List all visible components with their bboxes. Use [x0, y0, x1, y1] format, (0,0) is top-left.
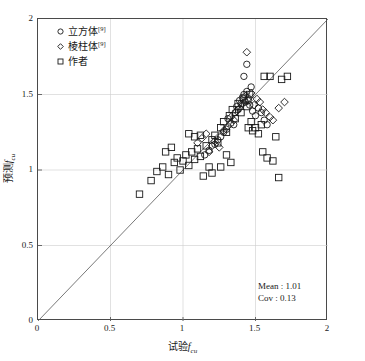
x-tick-label: 0 — [35, 324, 40, 333]
mean-value: Mean : 1.01 — [258, 280, 301, 292]
y-tick-label: 0 — [13, 316, 33, 325]
square-marker-icon — [54, 55, 67, 68]
x-axis-symbol: fcu — [188, 341, 197, 352]
y-axis-symbol: fcu — [3, 154, 14, 163]
data-point-square — [248, 118, 254, 124]
cov-value: Cov : 0.13 — [258, 292, 301, 304]
legend-label-author: 作者 — [68, 56, 88, 67]
y-tick-label: 2 — [13, 14, 33, 23]
data-point-square — [165, 171, 171, 177]
legend-item-author: 作者 — [54, 54, 106, 69]
data-point-square — [148, 177, 154, 183]
data-point-square — [218, 164, 224, 170]
data-point-square — [209, 170, 215, 176]
circle-marker-icon — [54, 25, 67, 38]
legend-label-cube: 立方体[9] — [68, 26, 106, 37]
y-tick-label: 0.5 — [13, 240, 33, 249]
data-point-diamond — [243, 48, 251, 56]
data-point-circle — [244, 61, 250, 67]
y-axis-title-cn: 预测 — [3, 163, 14, 183]
x-tick-label: 2 — [325, 324, 330, 333]
x-tick-label: 1 — [180, 324, 185, 333]
legend-item-cube: 立方体[9] — [54, 24, 106, 39]
data-point-square — [276, 174, 282, 180]
data-point-square — [136, 191, 142, 197]
y-tick-label: 1.5 — [13, 89, 33, 98]
data-point-square — [206, 164, 212, 170]
x-axis-title-cn: 试验 — [168, 341, 188, 352]
data-point-square — [273, 134, 279, 140]
legend-label-prism: 棱柱体[9] — [68, 41, 106, 52]
diamond-marker-icon — [54, 40, 67, 53]
legend: 立方体[9] 棱柱体[9] 作者 — [52, 22, 110, 71]
y-axis-title: 预测fcu — [0, 139, 17, 199]
x-tick-label: 0.5 — [104, 324, 115, 333]
data-point-square — [260, 149, 266, 155]
scatter-chart-figure: 立方体[9] 棱柱体[9] 作者 Mean : 1.01 Cov : 0.13 … — [0, 0, 365, 361]
data-point-square — [228, 159, 234, 165]
series-markers-square — [136, 73, 290, 197]
x-tick-label: 1.5 — [249, 324, 260, 333]
data-point-square — [223, 152, 229, 158]
data-point-circle — [241, 73, 247, 79]
data-point-diamond — [281, 98, 289, 106]
data-point-diamond — [275, 104, 283, 112]
series-markers-circle — [202, 61, 271, 158]
legend-item-prism: 棱柱体[9] — [54, 39, 106, 54]
x-axis-title: 试验fcu — [0, 338, 365, 355]
data-point-square — [200, 173, 206, 179]
statistics-annotation: Mean : 1.01 Cov : 0.13 — [258, 280, 301, 304]
